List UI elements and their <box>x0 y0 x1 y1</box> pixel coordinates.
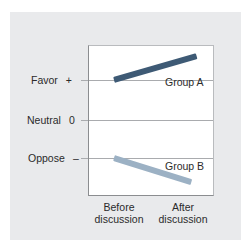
gridline-neutral <box>89 120 213 121</box>
y-tick-favor-name: Favor <box>31 74 58 86</box>
y-tick-oppose-sign: – <box>65 153 79 164</box>
y-tick-oppose-name: Oppose <box>28 152 65 164</box>
x-tick-label-after: After discussion <box>152 201 214 225</box>
y-tick-neutral-name: Neutral <box>27 114 61 126</box>
x-tick-after-line1: After <box>152 201 214 213</box>
x-tick-after-line2: discussion <box>152 213 214 225</box>
y-tick-label-neutral: Neutral0 <box>27 115 75 126</box>
series-label-group-b: Group B <box>165 161 204 172</box>
y-tick-mark-favor <box>81 80 88 81</box>
y-tick-label-oppose: Oppose– <box>28 153 79 164</box>
series-label-group-a: Group A <box>165 77 204 88</box>
x-tick-before-line1: Before <box>88 201 150 213</box>
y-tick-neutral-sign: 0 <box>61 115 75 126</box>
group-polarization-chart: Favor+ Neutral0 Oppose– Group A Group B … <box>0 0 251 250</box>
y-tick-favor-sign: + <box>58 75 72 86</box>
y-tick-mark-oppose <box>81 158 88 159</box>
plot-area: Group A Group B <box>88 45 214 196</box>
x-tick-before-line2: discussion <box>88 213 150 225</box>
y-tick-label-favor: Favor+ <box>31 75 72 86</box>
y-tick-mark-neutral <box>81 120 88 121</box>
x-tick-label-before: Before discussion <box>88 201 150 225</box>
